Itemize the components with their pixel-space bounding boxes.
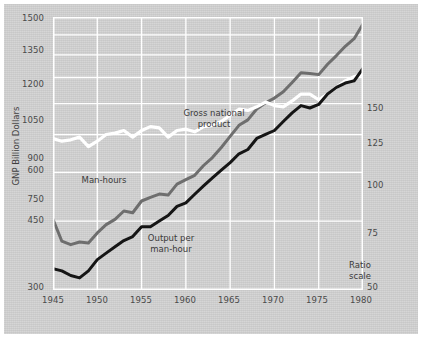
x-axis-tick-1960: 1960 xyxy=(165,295,205,305)
y-axis-tick-left-750: 750 xyxy=(4,194,44,204)
y-axis-tick-right-150: 150 xyxy=(367,103,407,113)
y-axis-tick-left-1500: 1500 xyxy=(4,13,44,23)
y-axis-tick-right-50: 50 xyxy=(367,282,407,292)
y-axis-tick-left-600b: 600 xyxy=(4,165,44,175)
y-axis-tick-left-1350: 1350 xyxy=(4,45,44,55)
y-axis-tick-left-1050: 1050 xyxy=(4,115,44,125)
chart-figure: 1500 1350 1200 1050 900 750 600 600 450 … xyxy=(4,4,418,334)
x-axis-tick-1970: 1970 xyxy=(253,295,293,305)
annotation-ratio-scale: Ratio scale xyxy=(337,260,383,281)
annotation-output-line1: Output per xyxy=(148,233,194,243)
y-axis-tick-right-100: 100 xyxy=(367,180,407,190)
annotation-ratio-line2: scale xyxy=(349,271,371,281)
y-axis-tick-left-1200: 1200 xyxy=(4,79,44,89)
y-axis-tick-right-125: 125 xyxy=(367,138,407,148)
y-axis-tick-right-75: 75 xyxy=(367,228,407,238)
x-axis-tick-1965: 1965 xyxy=(209,295,249,305)
y-axis-tick-left-450: 450 xyxy=(4,215,44,225)
x-axis-tick-1945: 1945 xyxy=(33,295,73,305)
annotation-output-line2: man-hour xyxy=(150,244,191,254)
chart-svg xyxy=(53,17,363,290)
annotation-ratio-line1: Ratio xyxy=(349,260,371,270)
plot-area xyxy=(53,17,363,290)
annotation-gross-national-product: Gross national product xyxy=(169,108,259,129)
annotation-gnp-line1: Gross national xyxy=(183,108,244,118)
gridlines xyxy=(53,17,363,290)
y-axis-tick-left-900: 900 xyxy=(4,153,44,163)
y-axis-title-left: GNP Billion Dollars xyxy=(11,81,21,211)
x-axis-tick-1950: 1950 xyxy=(77,295,117,305)
plot-border xyxy=(54,18,363,290)
x-axis-tick-1955: 1955 xyxy=(121,295,161,305)
data-series xyxy=(53,24,363,278)
annotation-man-hours: Man-hours xyxy=(66,175,142,186)
annotation-output-per-man-hour: Output per man-hour xyxy=(135,233,207,254)
x-axis-tick-1980: 1980 xyxy=(341,295,381,305)
y-axis-tick-left-300: 300 xyxy=(4,282,44,292)
annotation-gnp-line2: product xyxy=(198,119,231,129)
x-axis-tick-1975: 1975 xyxy=(297,295,337,305)
